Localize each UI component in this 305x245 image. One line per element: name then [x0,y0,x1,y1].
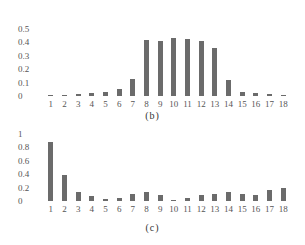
bar [185,198,190,201]
x-tick-label: 12 [194,204,208,214]
x-tick-label: 7 [126,204,140,214]
x-tick-label: 4 [85,204,99,214]
bar [158,195,163,201]
bar [48,142,53,201]
plot-area-c [44,134,290,201]
x-axis-c: 123456789101112131415161718 [44,204,290,216]
x-tick-label: 5 [99,204,113,214]
x-tick-label: 2 [58,204,72,214]
bar [212,194,217,201]
x-tick-label: 10 [167,204,181,214]
bar [130,194,135,201]
bar [226,192,231,201]
bar [199,195,204,201]
x-tick-label: 16 [249,204,263,214]
x-tick-label: 13 [208,204,222,214]
x-tick-label: 9 [153,204,167,214]
x-tick-label: 3 [71,204,85,214]
chart-c: 10.80.60.40.20 1234567891011121314151617… [0,0,305,245]
bar [240,194,245,201]
bar [103,199,108,201]
bar [117,198,122,201]
bar [144,192,149,201]
x-tick-label: 8 [140,204,154,214]
caption-c: (c) [0,222,305,233]
bar [89,196,94,201]
bar [76,192,81,201]
x-tick-label: 15 [235,204,249,214]
x-tick-label: 6 [112,204,126,214]
x-tick-label: 1 [44,204,58,214]
bar [281,188,286,201]
x-tick-label: 14 [222,204,236,214]
x-tick-label: 11 [181,204,195,214]
x-tick-label: 17 [263,204,277,214]
x-tick-label: 18 [276,204,290,214]
bar [253,195,258,201]
bar [62,175,67,201]
bar [171,200,176,201]
bar [267,190,272,201]
